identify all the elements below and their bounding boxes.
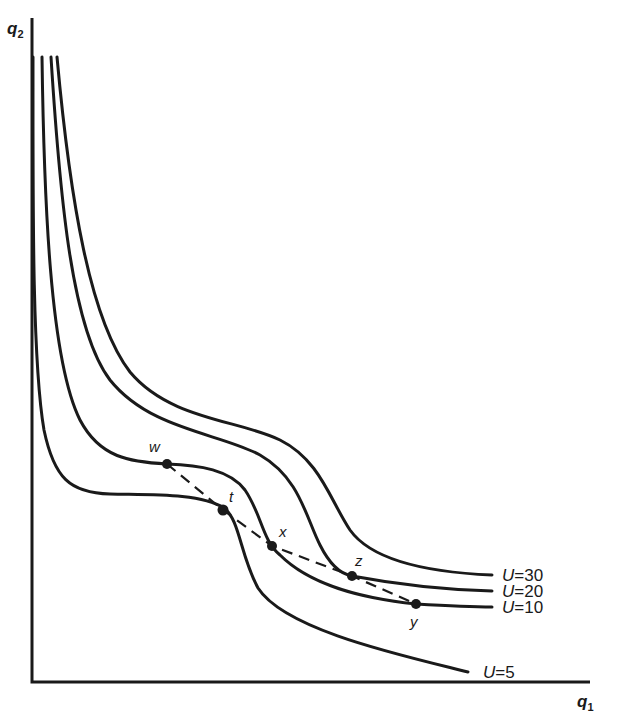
point-y [411,599,421,609]
curve-u30 [57,57,492,575]
point-w [162,459,172,469]
label-w: w [149,438,161,455]
label-t: t [229,488,234,505]
label-x: x [278,523,287,540]
label-y: y [409,613,419,630]
indifference-curve-chart: w t x z y U=30 U=20 U=10 U=5 q2 q1 [0,0,618,721]
curve-u5 [33,57,468,672]
y-axis-label: q2 [7,19,24,40]
label-z: z [354,552,363,569]
x-axis-label: q1 [577,692,594,713]
curve-u20 [51,57,492,591]
point-t [218,505,229,516]
point-z [347,571,357,581]
legend-u5: U=5 [483,663,515,682]
legend-u10: U=10 [502,598,543,617]
point-x [267,541,277,551]
